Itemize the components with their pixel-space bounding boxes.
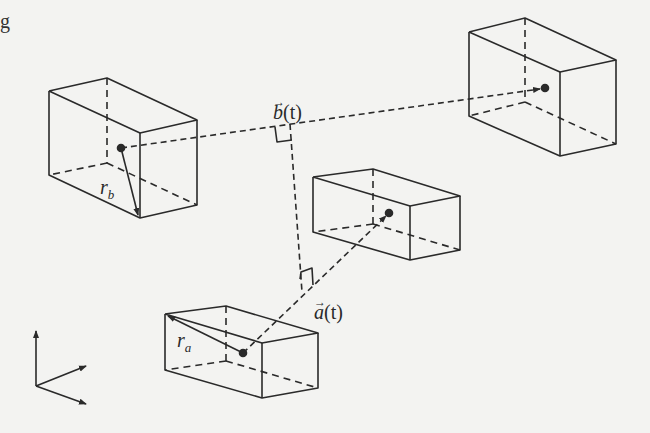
box-b-target <box>469 18 616 156</box>
point-b-target <box>542 85 549 92</box>
diagram-figure: g <box>0 0 650 433</box>
b-vector-line <box>121 89 540 148</box>
b-vector-label: →b(t) <box>273 102 302 122</box>
point-a-target <box>386 210 393 217</box>
r-a-label: ra <box>177 330 191 350</box>
perpendicular-line <box>290 124 302 292</box>
diagram-canvas <box>0 0 650 433</box>
r-b-label: rb <box>100 177 114 197</box>
box-a-target <box>313 169 460 260</box>
right-angle-marker-b <box>275 127 292 142</box>
axes-icon <box>36 331 86 404</box>
a-vector-label: →a(t) <box>314 302 343 322</box>
right-angle-marker-a <box>300 268 313 285</box>
r-b-arrow <box>121 148 138 215</box>
